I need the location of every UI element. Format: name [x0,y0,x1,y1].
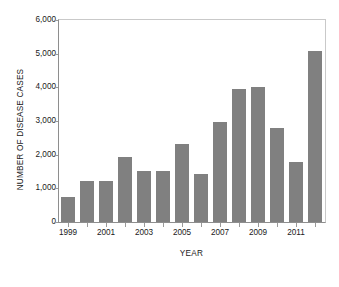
disease-cases-bar-chart: NUMBER OF DISEASE CASES 01,0002,0003,000… [0,0,339,287]
bar [175,144,189,222]
x-axis-tick-marks [59,223,325,227]
bar-slot [135,20,154,222]
bar [61,197,75,222]
x-axis-tick-label: 1999 [48,228,88,238]
y-axis-tick-label: 5,000 [26,50,56,58]
y-axis-tick-mark [54,155,58,156]
bar [213,122,227,222]
x-axis-tick-mark [106,223,107,227]
x-axis-tick-mark [182,223,183,227]
bar-slot [173,20,192,222]
x-axis-tick-mark [163,223,164,227]
x-axis-tick-mark [277,223,278,227]
bars-container [59,20,325,222]
x-axis-tick-mark [68,223,69,227]
bar-slot [306,20,325,222]
y-axis-tick-mark [54,121,58,122]
x-axis-title: YEAR [58,249,326,259]
x-axis-tick-label: 2003 [124,228,164,238]
bar-slot [154,20,173,222]
bar [308,51,322,222]
bar-slot [59,20,78,222]
x-axis-tick-mark [125,223,126,227]
x-axis-tick-mark [220,223,221,227]
bar-slot [287,20,306,222]
x-axis-tick-mark [201,223,202,227]
bar [99,181,113,222]
y-axis-tick-mark [54,222,58,223]
x-axis-tick-label: 2011 [276,228,316,238]
y-axis-tick-mark [54,87,58,88]
bar-slot [249,20,268,222]
x-axis-tick-mark [144,223,145,227]
bar-slot [268,20,287,222]
y-axis-tick-labels: 01,0002,0003,0004,0005,0006,000 [26,17,56,223]
x-axis-tick-mark [296,223,297,227]
bar-slot [192,20,211,222]
bar-slot [230,20,249,222]
x-axis-tick-label: 2005 [162,228,202,238]
bar [270,128,284,222]
x-axis-tick-label: 2009 [238,228,278,238]
bar [251,87,265,222]
y-axis-tick-mark [54,188,58,189]
bar [118,157,132,222]
bar [156,171,170,222]
x-axis-tick-mark [258,223,259,227]
y-axis-tick-label: 3,000 [26,117,56,125]
y-axis-tick-mark [54,20,58,21]
x-axis-tick-mark [315,223,316,227]
y-axis-tick-label: 4,000 [26,83,56,91]
y-axis-tick-mark [54,54,58,55]
y-axis-tick-label: 0 [26,218,56,226]
bar-slot [97,20,116,222]
x-axis-tick-labels: 1999200120032005200720092011 [59,228,325,240]
bar-slot [78,20,97,222]
y-axis-tick-label: 6,000 [26,16,56,24]
x-axis-tick-label: 2001 [86,228,126,238]
x-axis-tick-mark [239,223,240,227]
bar [232,89,246,222]
bar [80,181,94,222]
x-axis-tick-label: 2007 [200,228,240,238]
x-axis-tick-mark [87,223,88,227]
bar [194,174,208,222]
y-axis-tick-label: 2,000 [26,151,56,159]
bar-slot [116,20,135,222]
y-axis-tick-label: 1,000 [26,184,56,192]
bar [137,171,151,222]
bar-slot [211,20,230,222]
bar [289,162,303,222]
